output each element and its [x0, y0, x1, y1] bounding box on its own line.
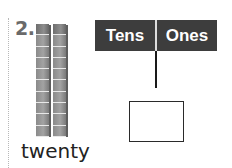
place-value-header: Tens Ones [95, 20, 217, 51]
unit-cube [53, 80, 66, 91]
unit-cube [36, 47, 49, 58]
unit-cube [36, 24, 49, 35]
unit-cube [36, 126, 49, 137]
unit-cube [53, 24, 66, 35]
problem-number: 2. [15, 17, 34, 39]
unit-cube [36, 58, 49, 69]
unit-cube [53, 126, 66, 137]
margin-dotted-line [8, 18, 9, 168]
tens-header: Tens [95, 20, 157, 51]
unit-cube [53, 69, 66, 80]
tens-rod [53, 24, 66, 137]
answer-box[interactable] [129, 101, 184, 142]
unit-cube [36, 92, 49, 103]
unit-cube [36, 69, 49, 80]
unit-cube [53, 114, 66, 125]
unit-cube [53, 35, 66, 46]
ones-header: Ones [157, 20, 217, 51]
unit-cube [36, 114, 49, 125]
unit-cube [53, 92, 66, 103]
unit-cube [53, 47, 66, 58]
unit-cube [36, 80, 49, 91]
unit-cube [53, 58, 66, 69]
column-divider-line [155, 51, 157, 88]
tens-rod [36, 24, 49, 137]
unit-cube [36, 103, 49, 114]
unit-cube [36, 35, 49, 46]
unit-cube [53, 103, 66, 114]
number-word-label: twenty [21, 139, 90, 163]
